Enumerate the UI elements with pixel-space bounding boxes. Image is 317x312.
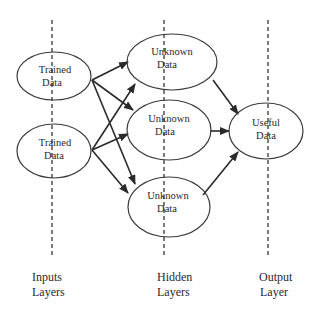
node-in1-ellipse (17, 52, 91, 100)
node-h2-label-line1: Unknown (148, 113, 190, 124)
node-out1: Useful Data (229, 103, 303, 159)
node-h3-label-line2: Data (157, 203, 177, 214)
node-h3-label-line1: Unknown (147, 190, 189, 201)
node-in1-label-line1: Trained (39, 64, 72, 75)
neural-network-diagram: Trained Data Trained Data Unknown Data U… (0, 0, 317, 312)
output-layer-label-line2: Layer (260, 285, 288, 299)
node-h1-label-line1: Unknown (151, 46, 193, 57)
node-out1-label-line1: Useful (252, 117, 280, 128)
node-h2: Unknown Data (127, 100, 211, 160)
node-h3: Unknown Data (128, 177, 210, 237)
edge-in1-h1 (92, 62, 128, 80)
output-layer-label-line1: Output (259, 270, 293, 284)
node-out1-label-line2: Data (256, 130, 276, 141)
input-layer-label-line2: Layers (32, 285, 65, 299)
node-h1: Unknown Data (127, 34, 217, 90)
node-in1: Trained Data (17, 52, 91, 100)
node-in1-label-line2: Data (42, 77, 62, 88)
edge-h3-out1 (203, 152, 238, 195)
hidden-layer-label-line2: Layers (157, 285, 190, 299)
node-h1-label-line2: Data (157, 59, 177, 70)
node-in2-label-line1: Trained (39, 137, 72, 148)
node-in2-label-line2: Data (44, 150, 64, 161)
hidden-layer-label-line1: Hidden (157, 270, 192, 284)
input-layer-label-line1: Inputs (32, 270, 62, 284)
edge-h1-out1 (213, 80, 238, 114)
node-in2: Trained Data (17, 124, 91, 178)
node-h2-label-line2: Data (155, 126, 175, 137)
edge-in2-h3 (92, 150, 128, 193)
